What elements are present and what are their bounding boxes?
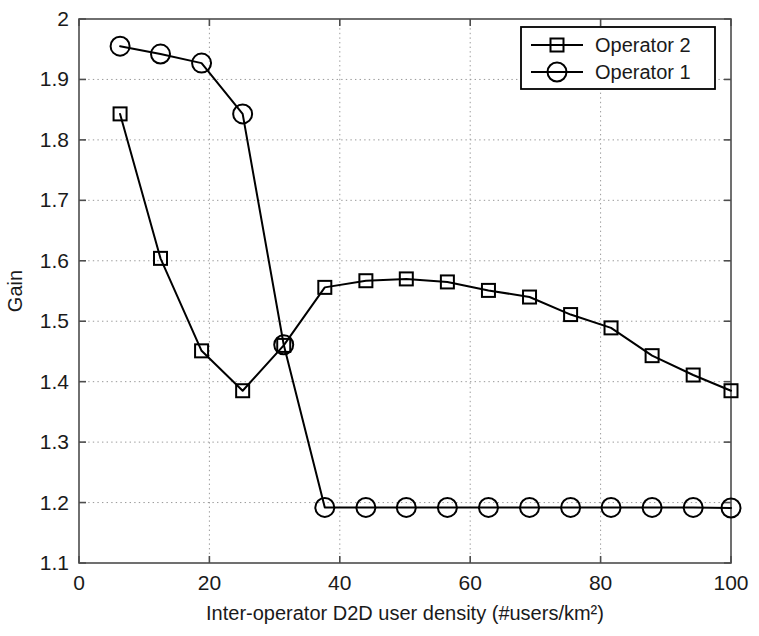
y-tick-label: 1.9: [40, 67, 69, 90]
gain-vs-density-line-chart: 020406080100 1.11.21.31.41.51.61.71.81.9…: [0, 0, 759, 636]
y-tick-label: 1.8: [40, 128, 69, 151]
y-tick-label: 1.6: [40, 249, 69, 272]
y-tick-label: 1.7: [40, 188, 69, 211]
legend-label: Operator 1: [595, 61, 691, 83]
y-tick-label: 1.3: [40, 430, 69, 453]
legend-label: Operator 2: [595, 34, 691, 56]
legend[interactable]: Operator 2Operator 1: [521, 27, 715, 89]
x-tick-label: 0: [73, 571, 85, 594]
x-tick-label: 100: [713, 571, 748, 594]
x-tick-label: 40: [328, 571, 351, 594]
y-axis-title: Gain: [4, 270, 26, 312]
y-tick-label: 1.2: [40, 491, 69, 514]
y-tick-label: 1.1: [40, 551, 69, 574]
chart-background: [0, 0, 759, 636]
x-tick-label: 20: [198, 571, 221, 594]
y-tick-label: 1.4: [40, 370, 70, 393]
y-tick-label: 1.5: [40, 309, 69, 332]
x-tick-label: 80: [589, 571, 612, 594]
y-tick-label: 2: [57, 7, 69, 30]
x-tick-label: 60: [459, 571, 482, 594]
x-axis-title: Inter-operator D2D user density (#users/…: [206, 602, 604, 624]
figure-container: 020406080100 1.11.21.31.41.51.61.71.81.9…: [0, 0, 759, 636]
